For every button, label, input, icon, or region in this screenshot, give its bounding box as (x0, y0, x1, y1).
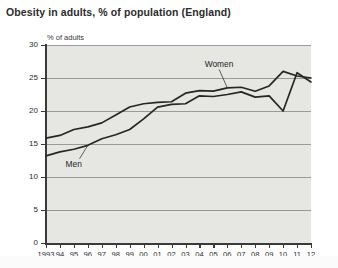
series-line-men (46, 73, 311, 156)
series-label-men: Men (66, 159, 82, 169)
figure-footer-margin (0, 256, 338, 268)
plot-area: 051015202530 199394959697989900010203040… (0, 0, 338, 268)
series-label-women: Women (205, 59, 234, 69)
series-lines (0, 0, 338, 268)
leader-line-women (219, 70, 227, 88)
obesity-line-chart-figure: Obesity in adults, % of population (Engl… (0, 0, 338, 268)
